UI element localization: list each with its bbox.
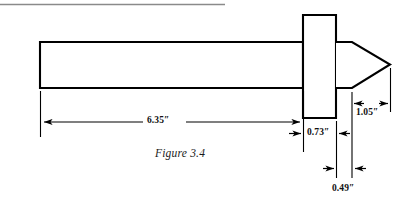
conical-tip: [336, 42, 390, 88]
dimension-label-cone-tip-length: 1.05″: [356, 108, 378, 118]
dimension-label-overall-shaft-length: 6.35″: [147, 116, 169, 126]
dimension-label-cone-flat-length: 0.49″: [332, 184, 354, 194]
technical-drawing-figure: 6.35″ 0.73″ 1.05″ 0.49″ Figure 3.4: [0, 0, 416, 206]
collar-rectangle: [303, 15, 336, 118]
figure-caption: Figure 3.4: [155, 148, 205, 160]
dimension-label-collar-width: 0.73″: [307, 128, 329, 138]
part-outline: [40, 15, 390, 118]
engineering-drawing-canvas: [0, 0, 416, 206]
shaft-rectangle: [40, 42, 303, 88]
